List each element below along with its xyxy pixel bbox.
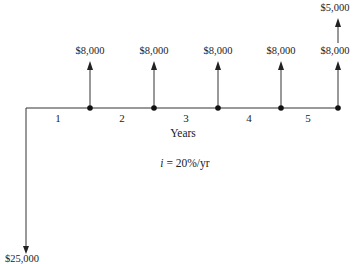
period-label-3: 3: [183, 112, 189, 124]
inflow-label-year-3: $8,000: [204, 45, 233, 56]
inflow-label-year-2: $8,000: [140, 45, 169, 56]
period-label-2: 2: [119, 112, 125, 124]
period-label-4: 4: [246, 112, 252, 124]
interest-value: = 20%/yr: [164, 157, 210, 169]
inflow-label-year-1: $8,000: [76, 45, 105, 56]
extra-inflow-label: $5,000: [321, 2, 350, 13]
outflow-label: $25,000: [5, 253, 39, 264]
inflow-arrows: [87, 18, 341, 108]
interest-rate: i = 20%/yr: [160, 157, 209, 169]
inflow-label-year-4: $8,000: [267, 45, 296, 56]
period-label-5: 5: [305, 112, 311, 124]
inflow-label-year-5: $8,000: [321, 45, 350, 56]
period-label-1: 1: [55, 112, 61, 124]
axis-title: Years: [170, 127, 196, 139]
